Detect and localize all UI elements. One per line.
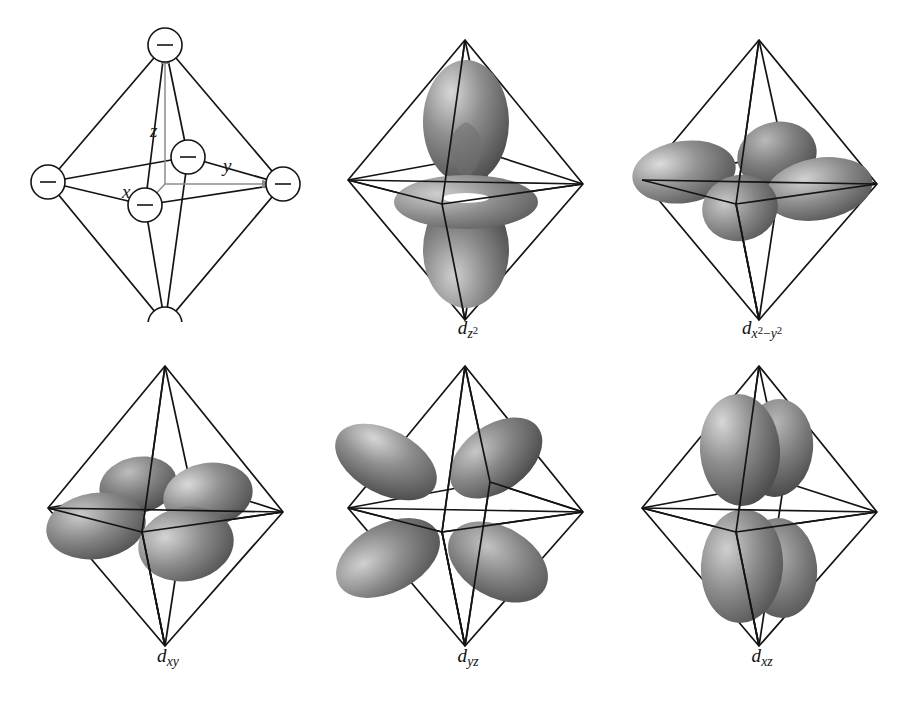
octahedron-stage-axes: z y x	[18, 12, 318, 322]
octahedron-wireframe	[348, 366, 583, 646]
ligand-right	[266, 167, 300, 201]
orbital-label-dyz: dyz	[318, 646, 618, 669]
panel-dxz: dxz	[612, 340, 912, 690]
orbital-figure: z y x	[0, 0, 922, 707]
orbital-label-dz2: dz2	[318, 318, 618, 341]
octahedron-stage-dz2	[318, 12, 618, 322]
panel-dxy: dxy	[18, 340, 318, 690]
orbital-label-dx2y2: dx2−y2	[612, 318, 912, 341]
octahedron-stage-dx2y2	[612, 12, 912, 322]
ligand-front	[128, 188, 162, 222]
axis-label-x: x	[121, 181, 131, 202]
orbital-dz2	[394, 60, 538, 308]
orbital-label-dxz: dxz	[612, 646, 912, 669]
ligand-top	[148, 28, 182, 62]
axis-label-y: y	[221, 155, 232, 176]
axis-label-z: z	[149, 120, 158, 141]
ligand-back	[171, 140, 205, 174]
orbital-label-dxy: dxy	[18, 646, 318, 669]
octahedron-stage-dxy	[18, 340, 318, 650]
panel-dx2y2: dx2−y2	[612, 12, 912, 362]
panel-axes-reference: z y x	[18, 12, 318, 362]
ligand-left	[31, 165, 65, 199]
panel-dyz: dyz	[318, 340, 618, 690]
panel-dz2: dz2	[318, 12, 618, 362]
octahedron-wireframe-front	[348, 366, 583, 646]
octahedron-stage-dyz	[318, 340, 618, 650]
octahedron-stage-dxz	[612, 340, 912, 650]
